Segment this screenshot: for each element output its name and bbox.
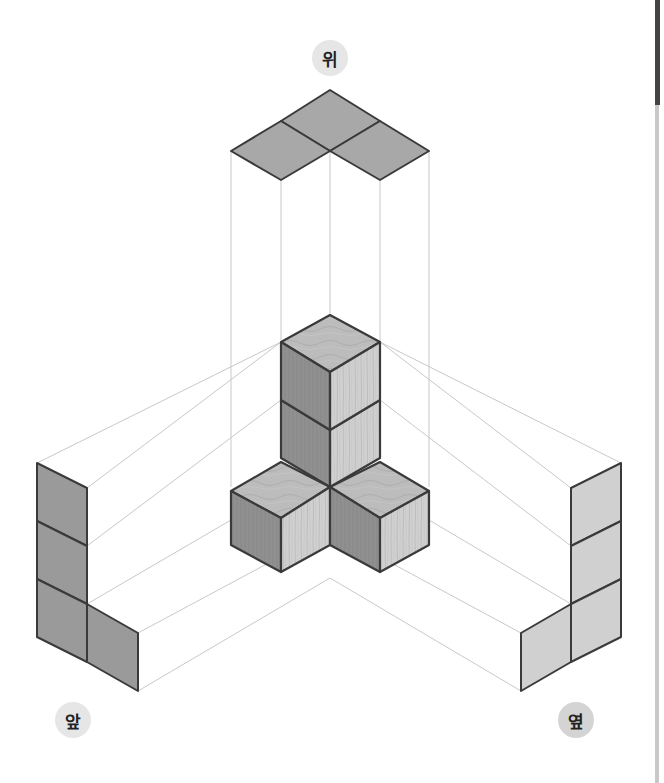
cube-structure: [231, 315, 429, 572]
diagram-canvas: [0, 0, 664, 783]
isometric-views-diagram: 위 앞 옆: [0, 0, 664, 783]
front-view-label: 앞: [55, 702, 91, 738]
page-edge-scrollbar-thumb[interactable]: [655, 0, 660, 105]
top-view-label: 위: [312, 40, 348, 76]
front-view: [37, 463, 138, 691]
page-edge-scrollbar[interactable]: [655, 0, 659, 783]
side-view-label: 옆: [558, 702, 594, 738]
side-view: [521, 463, 621, 691]
